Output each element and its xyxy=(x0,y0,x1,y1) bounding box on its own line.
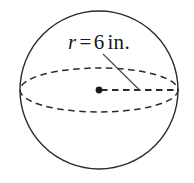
sphere-figure-svg xyxy=(0,0,194,183)
label-leader-line xyxy=(103,54,140,90)
sphere-center-dot xyxy=(96,87,103,94)
radius-value: 6 xyxy=(94,30,105,54)
equals-sign: = xyxy=(77,30,93,54)
radius-unit: in. xyxy=(104,30,130,54)
radius-label: r=6in. xyxy=(68,30,130,54)
sphere-diagram: r=6in. xyxy=(0,0,194,183)
